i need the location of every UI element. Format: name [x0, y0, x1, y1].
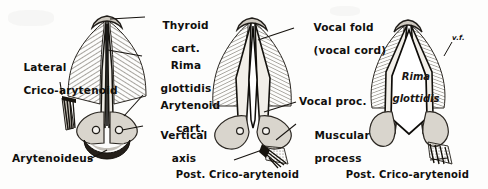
caption-pca-vertical: Post. Crico-arytenoid (vertical fibers) [316, 158, 484, 189]
vertical-axis-marker-left [92, 126, 99, 133]
inline-label-rima-glottidis-line1: Rima [402, 71, 430, 82]
caption-pca-vertical-line1: Post. Crico-arytenoid [346, 169, 469, 180]
inline-label-rima-glottidis: Rima glottidis [378, 60, 440, 115]
arytenoid-cartilage-left [77, 112, 104, 144]
leader-vf [444, 42, 452, 56]
label-lateral-crico-arytenoid-line1: Lateral [23, 61, 66, 73]
label-rima-glottidis-line1: Rima [171, 59, 202, 71]
vertical-axis-marker-right-2 [263, 128, 270, 135]
thyroid-cartilage-apex-3 [394, 20, 422, 32]
label-thyroid-cartilage-line1: Thyroid [162, 19, 208, 31]
panel-intermediate-drawing [213, 18, 296, 168]
caption-pca-horizontal: Post. Crico-arytenoid (horizontal fibers… [145, 158, 315, 189]
label-vocal-fold-line2: (vocal cord) [313, 44, 386, 56]
vertical-axis-marker-right [115, 126, 122, 133]
label-arytenoid-cartilage-line1: Arytenoid [160, 99, 220, 111]
label-lateral-crico-arytenoid: Lateral Crico-arytenoid [8, 50, 118, 108]
leader-thyroid-cart [110, 17, 145, 19]
label-vf-abbrev: v.f. [452, 34, 465, 42]
label-vocal-process: Vocal proc. [299, 96, 367, 108]
caption-pca-horizontal-line1: Post. Crico-arytenoid [176, 169, 299, 180]
label-muscular-process-line1: Muscular [314, 129, 369, 141]
figure-canvas: Thyroid cart. Rima glottidis Arytenoid c… [0, 0, 488, 189]
arytenoid-cartilage-right-3 [423, 112, 449, 147]
thyroid-cartilage-apex-2 [237, 18, 267, 30]
label-arytenoideus: Arytenoideus [12, 153, 93, 165]
inline-label-rima-glottidis-line2: glottidis [392, 93, 439, 104]
label-vocal-fold: Vocal fold (vocal cord) [298, 10, 386, 68]
label-vocal-fold-line1: Vocal fold [313, 21, 373, 33]
arytenoid-cartilage-left-3 [370, 112, 396, 147]
vertical-axis-marker-left-2 [237, 128, 244, 135]
label-vertical-axis-line1: Vertical [160, 129, 207, 141]
label-lateral-crico-arytenoid-line2: Crico-arytenoid [23, 84, 117, 96]
